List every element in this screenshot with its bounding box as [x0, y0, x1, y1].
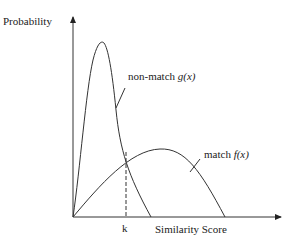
- match-label-text: match: [204, 148, 234, 160]
- match-label: match f(x): [204, 148, 249, 161]
- match-leader: [190, 159, 200, 172]
- non-match-label: non-match g(x): [128, 70, 196, 83]
- non-match-label-arg: (x): [183, 70, 196, 83]
- match-curve: [73, 149, 225, 217]
- threshold-label: k: [122, 222, 128, 234]
- y-axis-label: Probability: [3, 15, 52, 27]
- x-axis-label: Similarity Score: [155, 223, 227, 235]
- non-match-leader: [116, 88, 125, 108]
- probability-diagram: Probability Similarity Score k non-match…: [0, 0, 291, 245]
- non-match-curve: [73, 42, 151, 217]
- match-label-arg: (x): [237, 148, 250, 161]
- non-match-label-text: non-match: [128, 70, 178, 82]
